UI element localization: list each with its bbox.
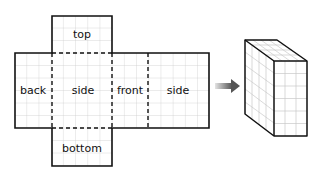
rectangular-prism: [245, 40, 307, 136]
net-to-box-diagram: top back side front side bottom: [0, 0, 324, 174]
face-label-side-left: side: [72, 84, 95, 97]
arrow-right-icon: [215, 79, 240, 93]
face-label-side-right: side: [167, 84, 190, 97]
face-label-back: back: [20, 84, 47, 97]
face-label-front: front: [117, 84, 144, 97]
net: top back side front side bottom: [15, 16, 209, 166]
face-label-bottom: bottom: [62, 142, 102, 155]
face-label-top: top: [73, 28, 91, 41]
